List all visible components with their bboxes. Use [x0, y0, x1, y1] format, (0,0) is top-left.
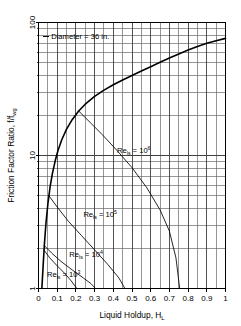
y-tick-label-100: 100: [28, 15, 37, 29]
y-axis-title: Friction Factor Ratio, f/fwg: [6, 108, 17, 202]
re-4-label-text: Rels = 104: [69, 249, 103, 260]
curve-re-ls-10-6: [79, 111, 180, 288]
diameter-note-label: Diameter = 36 in.: [51, 32, 109, 41]
x-tick-label-0.8: 0.8: [183, 294, 195, 303]
x-tick-label-0.4: 0.4: [108, 294, 120, 303]
x-tick-label-0: 0: [36, 294, 41, 303]
x-tick-label-1: 1: [223, 294, 228, 303]
x-tick-label-0.1: 0.1: [52, 294, 64, 303]
x-tick-label-0.3: 0.3: [89, 294, 101, 303]
x-axis-title: Liquid Holdup, HL: [99, 310, 165, 321]
re-6-label: Rels = 106: [117, 145, 151, 156]
x-tick-label-0.2: 0.2: [70, 294, 82, 303]
figure-container: 00.10.20.30.40.50.60.70.80.91110100Diame…: [0, 0, 241, 326]
re-5-label: Rels = 105: [83, 209, 117, 220]
re-3-label: Rels = 103: [47, 269, 81, 280]
x-tick-label-0.7: 0.7: [164, 294, 176, 303]
x-tick-label-0.5: 0.5: [126, 294, 138, 303]
re-3-label-text: Rels = 103: [47, 269, 81, 280]
x-tick-label-0.9: 0.9: [201, 294, 213, 303]
re-6-label-text: Rels = 106: [117, 145, 151, 156]
re-4-label: Rels = 104: [69, 249, 103, 260]
x-tick-label-0.6: 0.6: [145, 294, 157, 303]
friction-factor-ratio-chart: 00.10.20.30.40.50.60.70.80.91110100Diame…: [0, 0, 241, 326]
y-tick-label-1: 1: [28, 286, 37, 291]
re-5-label-text: Rels = 105: [83, 209, 117, 220]
y-tick-label-10: 10: [28, 151, 37, 160]
